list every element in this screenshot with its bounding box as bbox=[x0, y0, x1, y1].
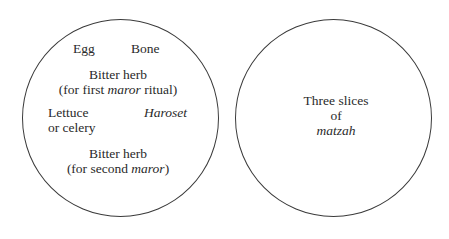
label-egg: Egg bbox=[73, 41, 95, 56]
label-bitter-herb-second: Bitter herb (for second maror) bbox=[67, 146, 169, 176]
bitter-herb-first-line1: Bitter herb bbox=[59, 67, 177, 82]
bitter-herb-second-line1: Bitter herb bbox=[67, 146, 169, 161]
haroset-italic: Haroset bbox=[144, 105, 187, 120]
bitter-herb-second-line2: (for second maror) bbox=[67, 161, 169, 176]
matzah-italic: matzah bbox=[316, 123, 355, 138]
label-bitter-herb-first: Bitter herb (for first maror ritual) bbox=[59, 67, 177, 97]
label-matzah: Three slices of matzah bbox=[304, 93, 369, 138]
matzah-line1: Three slices bbox=[304, 93, 369, 108]
label-bone: Bone bbox=[131, 41, 160, 56]
matzah-line3: matzah bbox=[304, 123, 369, 138]
label-haroset: Haroset bbox=[144, 105, 187, 120]
bitter-herb-second-pre: (for second bbox=[67, 161, 131, 176]
bitter-herb-second-italic: maror bbox=[131, 161, 164, 176]
matzah-line2: of bbox=[304, 108, 369, 123]
bitter-herb-first-pre: (for first bbox=[59, 82, 108, 97]
bitter-herb-second-post: ) bbox=[165, 161, 170, 176]
lettuce-line2: or celery bbox=[48, 120, 96, 135]
bitter-herb-first-line2: (for first maror ritual) bbox=[59, 82, 177, 97]
bitter-herb-first-post: ritual) bbox=[141, 82, 177, 97]
lettuce-line1: Lettuce bbox=[48, 105, 96, 120]
bitter-herb-first-italic: maror bbox=[108, 82, 141, 97]
label-lettuce: Lettuce or celery bbox=[48, 105, 96, 135]
